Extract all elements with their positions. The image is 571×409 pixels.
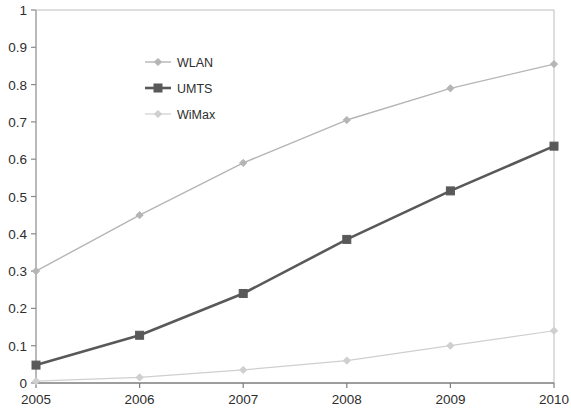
series-line	[36, 331, 554, 381]
y-tick-label: 0.4	[8, 227, 27, 242]
chart-canvas: 00.10.20.30.40.50.60.70.80.91 2005200620…	[0, 0, 571, 409]
series-umts	[32, 142, 558, 369]
x-tick-label: 2007	[228, 392, 258, 407]
data-point-marker	[154, 110, 161, 117]
plot-frame	[36, 10, 554, 383]
x-tick-label: 2006	[125, 392, 155, 407]
data-point-marker	[136, 212, 143, 219]
y-tick-label: 0	[19, 376, 27, 391]
legend-label: WLAN	[177, 56, 213, 70]
series-line	[36, 64, 554, 271]
x-tick-label: 2005	[21, 392, 51, 407]
chart-legend: WLANUMTSWiMax	[145, 56, 216, 122]
data-point-marker	[550, 327, 557, 334]
data-point-marker	[32, 268, 39, 275]
legend-item-wimax: WiMax	[145, 108, 216, 122]
y-axis: 00.10.20.30.40.50.60.70.80.91	[8, 3, 36, 391]
y-tick-label: 0.9	[8, 40, 27, 55]
data-point-marker	[239, 289, 247, 297]
series-wimax	[32, 327, 557, 385]
data-point-marker	[240, 366, 247, 373]
data-point-marker	[343, 357, 350, 364]
data-point-marker	[447, 85, 454, 92]
y-tick-label: 1	[19, 3, 27, 18]
x-tick-label: 2008	[332, 392, 362, 407]
y-tick-label: 0.1	[8, 339, 27, 354]
line-chart: 00.10.20.30.40.50.60.70.80.91 2005200620…	[0, 0, 571, 409]
y-tick-label: 0.8	[8, 78, 27, 93]
data-point-marker	[343, 116, 350, 123]
y-tick-label: 0.3	[8, 264, 27, 279]
legend-label: WiMax	[177, 108, 216, 122]
data-point-marker	[136, 331, 144, 339]
legend-item-wlan: WLAN	[145, 56, 213, 70]
legend-item-umts: UMTS	[145, 82, 212, 96]
legend-label: UMTS	[177, 82, 212, 96]
series-layer	[32, 60, 558, 384]
data-point-marker	[136, 374, 143, 381]
series-wlan	[32, 60, 557, 274]
data-point-marker	[32, 361, 40, 369]
x-tick-label: 2009	[435, 392, 465, 407]
y-tick-label: 0.2	[8, 301, 27, 316]
data-point-marker	[447, 342, 454, 349]
y-tick-label: 0.5	[8, 190, 27, 205]
data-point-marker	[343, 235, 351, 243]
x-tick-label: 2010	[539, 392, 569, 407]
y-tick-label: 0.6	[8, 152, 27, 167]
data-point-marker	[240, 159, 247, 166]
series-line	[36, 146, 554, 365]
data-point-marker	[446, 187, 454, 195]
data-point-marker	[154, 84, 162, 92]
data-point-marker	[550, 60, 557, 67]
data-point-marker	[154, 58, 161, 65]
y-tick-label: 0.7	[8, 115, 27, 130]
x-axis: 200520062007200820092010	[21, 383, 569, 407]
data-point-marker	[550, 142, 558, 150]
